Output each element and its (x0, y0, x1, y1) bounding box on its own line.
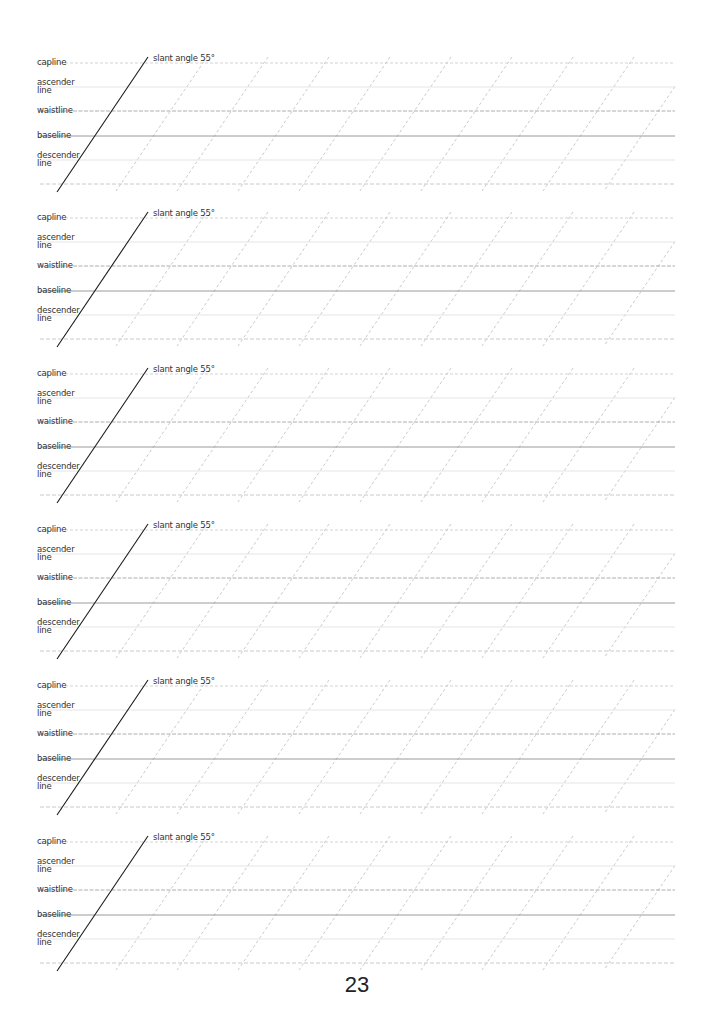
slant-guide-dashed (299, 680, 390, 814)
slant-guide-dashed (177, 836, 268, 970)
slant-guide-dashed (116, 57, 207, 191)
slant-guide-dashed (177, 680, 268, 814)
slant-guide-dashed (604, 86, 675, 191)
slant-guide-dashed (421, 680, 512, 814)
slant-guide-dashed (238, 368, 329, 502)
slant-guide-dashed (360, 524, 451, 658)
slant-guide-dashed (482, 57, 573, 191)
slant-guide-dashed (238, 212, 329, 346)
slant-guide-dashed (116, 212, 207, 346)
waistline-label: waistline (37, 417, 73, 425)
descender-label: descender line (37, 930, 80, 946)
slant-guide-dashed (177, 212, 268, 346)
slant-guide-dashed (421, 524, 512, 658)
slant-guide-dashed (604, 397, 675, 502)
slant-guide-dashed (299, 57, 390, 191)
capline-label: capline (37, 681, 66, 689)
baseline-label: baseline (37, 910, 71, 918)
slant-guide-dashed (604, 241, 675, 346)
slant-guide-dashed (116, 524, 207, 658)
capline-label: capline (37, 525, 66, 533)
descender-label: descender line (37, 306, 80, 322)
slant-guide-dashed (482, 680, 573, 814)
slant-guide-dashed (421, 57, 512, 191)
slant-guide-dashed (299, 836, 390, 970)
waistline-label: waistline (37, 261, 73, 269)
capline-label: capline (37, 213, 66, 221)
slant-guide-dashed (604, 553, 675, 658)
slant-guide-dashed (543, 212, 634, 346)
page-number: 23 (0, 972, 714, 998)
capline-label: capline (37, 369, 66, 377)
ascender-label: ascender line (37, 389, 74, 405)
slant-guide-dashed (543, 368, 634, 502)
waistline-label: waistline (37, 729, 73, 737)
slant-guide-dashed (177, 524, 268, 658)
capline-label: capline (37, 837, 66, 845)
slant-angle-label: slant angle 55° (153, 832, 215, 842)
slant-angle-label: slant angle 55° (153, 520, 215, 530)
slant-guide-dashed (116, 368, 207, 502)
slant-guide-dashed (543, 57, 634, 191)
practice-sheet: caplineascender linewaistlinebaselinedes… (0, 0, 714, 1034)
waistline-label: waistline (37, 573, 73, 581)
waistline-label: waistline (37, 885, 73, 893)
slant-angle-label: slant angle 55° (153, 208, 215, 218)
slant-guide-dashed (421, 368, 512, 502)
baseline-label: baseline (37, 131, 71, 139)
slant-guide-dashed (604, 709, 675, 814)
slant-angle-label: slant angle 55° (153, 364, 215, 374)
slant-guide-dashed (116, 680, 207, 814)
slant-guide-dashed (421, 212, 512, 346)
ascender-label: ascender line (37, 78, 74, 94)
ascender-label: ascender line (37, 701, 74, 717)
slant-guide-dashed (421, 836, 512, 970)
descender-label: descender line (37, 774, 80, 790)
slant-guide-dashed (482, 212, 573, 346)
slant-guide-dashed (238, 680, 329, 814)
slant-guide-dashed (177, 57, 268, 191)
slant-guide-dashed (360, 57, 451, 191)
slant-guide-dashed (360, 212, 451, 346)
slant-guide-dashed (360, 836, 451, 970)
slant-guide-dashed (238, 524, 329, 658)
baseline-label: baseline (37, 598, 71, 606)
slant-angle-label: slant angle 55° (153, 53, 215, 63)
slant-guide-dashed (482, 368, 573, 502)
waistline-label: waistline (37, 106, 73, 114)
baseline-label: baseline (37, 442, 71, 450)
slant-guide-dashed (299, 212, 390, 346)
capline-label: capline (37, 58, 66, 66)
slant-angle-label: slant angle 55° (153, 676, 215, 686)
ascender-label: ascender line (37, 545, 74, 561)
slant-guide-dashed (238, 57, 329, 191)
slant-guide-dashed (604, 865, 675, 970)
slant-guide-dashed (177, 368, 268, 502)
baseline-label: baseline (37, 286, 71, 294)
slant-guide-dashed (238, 836, 329, 970)
slant-guide-dashed (299, 368, 390, 502)
slant-guide-dashed (116, 836, 207, 970)
slant-guide-dashed (299, 524, 390, 658)
slant-guide-dashed (543, 836, 634, 970)
ascender-label: ascender line (37, 857, 74, 873)
slant-guide-dashed (360, 680, 451, 814)
descender-label: descender line (37, 618, 80, 634)
descender-label: descender line (37, 151, 80, 167)
slant-guide-dashed (482, 524, 573, 658)
descender-label: descender line (37, 462, 80, 478)
baseline-label: baseline (37, 754, 71, 762)
slant-guide-dashed (360, 368, 451, 502)
ascender-label: ascender line (37, 233, 74, 249)
slant-guide-dashed (543, 524, 634, 658)
slant-guide-dashed (482, 836, 573, 970)
slant-guide-dashed (543, 680, 634, 814)
guide-lines (0, 0, 714, 1034)
